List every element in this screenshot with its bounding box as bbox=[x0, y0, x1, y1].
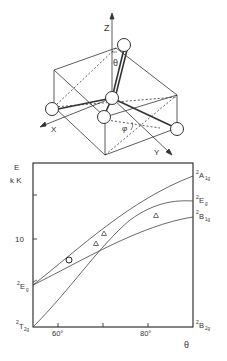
x-arrow-icon bbox=[40, 122, 46, 127]
z-axis-label: Z bbox=[104, 23, 110, 33]
theta-label: θ bbox=[113, 58, 118, 68]
data-point-triangle bbox=[102, 231, 107, 236]
data-point-triangle bbox=[154, 213, 159, 218]
right-label-2B1g: 2 B 1g bbox=[196, 209, 211, 222]
figure: Z X Y θ φ E k K 10 60° 80° θ 2 E bbox=[0, 0, 227, 361]
svg-text:2g: 2g bbox=[205, 326, 211, 331]
svg-text:E: E bbox=[20, 282, 25, 291]
y-axis-label: Y bbox=[154, 148, 160, 157]
data-point-circle bbox=[66, 257, 72, 263]
svg-text:E: E bbox=[199, 196, 204, 205]
svg-text:A: A bbox=[199, 171, 204, 180]
left-label-2T2g: 2 T 2g bbox=[16, 319, 30, 332]
svg-text:B: B bbox=[199, 321, 204, 330]
structure-diagram bbox=[40, 13, 184, 155]
box-edge bbox=[105, 128, 177, 155]
curve-2Eg-to-2B1g bbox=[33, 217, 193, 285]
atom-top bbox=[118, 39, 131, 52]
plot-frame bbox=[33, 163, 193, 327]
svg-text:1g: 1g bbox=[205, 176, 211, 181]
svg-text:B: B bbox=[199, 212, 204, 221]
svg-text:g: g bbox=[26, 287, 29, 292]
phi-arc bbox=[131, 122, 133, 130]
atom-left bbox=[46, 103, 59, 116]
left-label-2Eg: 2 E g bbox=[17, 280, 29, 292]
svg-text:g: g bbox=[205, 201, 208, 206]
right-label-2A1g: 2 A 1g bbox=[196, 169, 211, 181]
atom-front bbox=[98, 111, 111, 124]
x-axis-label: X bbox=[51, 125, 57, 134]
eg-marker bbox=[33, 280, 37, 282]
z-arrow-icon bbox=[110, 13, 114, 19]
x-tick-label-80: 80° bbox=[140, 329, 151, 338]
right-label-2Eg: 2 E g bbox=[196, 194, 208, 206]
box-edge bbox=[54, 107, 105, 155]
energy-chart bbox=[33, 163, 193, 327]
curve-2Eg-to-2A1g bbox=[33, 176, 193, 285]
atom-right bbox=[171, 123, 184, 136]
y-axis-title: E bbox=[14, 163, 19, 172]
x-tick-label-60: 60° bbox=[52, 329, 63, 338]
curve-2T2g-to-2Eg bbox=[33, 201, 193, 327]
atom-center bbox=[106, 92, 119, 105]
x-axis-title: θ bbox=[184, 340, 189, 350]
svg-text:2g: 2g bbox=[24, 327, 30, 332]
data-point-triangle bbox=[94, 241, 99, 246]
right-label-2B2g: 2 B 2g bbox=[196, 319, 211, 331]
phi-label: φ bbox=[122, 124, 127, 133]
y-axis-unit: k K bbox=[10, 176, 22, 185]
y-tick-label-10: 10 bbox=[15, 235, 24, 244]
svg-text:1g: 1g bbox=[205, 217, 211, 222]
